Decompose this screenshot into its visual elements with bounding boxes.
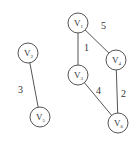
edge-weight-label: 3 <box>18 84 23 95</box>
node-v4: V4 <box>106 50 126 70</box>
node-v5: V5 <box>30 107 50 127</box>
graph-diagram: 15423 V1V2V3V4V5V6 <box>0 0 139 147</box>
node-v3: V3 <box>68 65 88 85</box>
edge-weight-label: 2 <box>121 88 126 99</box>
node-v6: V6 <box>108 113 128 133</box>
node-v2: V2 <box>18 43 38 63</box>
edge-weight-label: 5 <box>101 20 106 31</box>
node-v1: V1 <box>68 13 88 33</box>
edge-weight-label: 4 <box>96 85 101 96</box>
edge-weight-label: 1 <box>84 42 89 53</box>
